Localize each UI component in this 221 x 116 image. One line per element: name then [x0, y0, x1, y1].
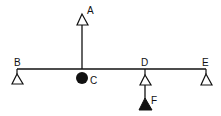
node-c-label: C	[90, 75, 97, 86]
tree-diagram: A B C D F E	[0, 0, 221, 116]
node-e-open-triangle-icon	[201, 74, 212, 85]
node-a-label: A	[87, 5, 94, 16]
node-e-label: E	[202, 57, 209, 68]
node-c-filled-circle-icon	[76, 72, 88, 84]
node-d-open-triangle-icon	[140, 75, 151, 85]
node-d-label: D	[141, 57, 148, 68]
node-f-label: F	[151, 95, 157, 106]
node-b-label: B	[14, 57, 21, 68]
node-b-open-triangle-icon	[12, 74, 23, 84]
